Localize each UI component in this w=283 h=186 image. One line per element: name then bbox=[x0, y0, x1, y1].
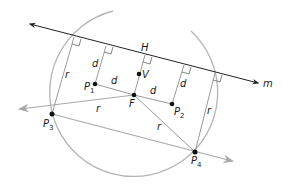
label-d-p1-perp: d bbox=[92, 58, 99, 69]
perp-p4 bbox=[195, 73, 215, 152]
label-v: V bbox=[142, 69, 150, 80]
label-p4: P4 bbox=[191, 155, 202, 169]
label-r-f-p4: r bbox=[157, 121, 162, 132]
label-p3: P3 bbox=[43, 118, 54, 132]
label-h: H bbox=[141, 42, 149, 53]
label-r-p4-perp: r bbox=[207, 105, 212, 116]
point-v bbox=[137, 72, 142, 77]
label-f: F bbox=[129, 98, 135, 109]
ray-f-p3 bbox=[20, 95, 134, 109]
label-d-f-p1: d bbox=[111, 75, 118, 86]
label-r-p3-perp: r bbox=[65, 69, 70, 80]
parabola-diagram: m H V F P1 P2 P3 P4 d d d d r r r r bbox=[0, 0, 283, 186]
label-r-f-p3: r bbox=[96, 103, 101, 114]
point-p1 bbox=[93, 82, 98, 87]
label-d-f-p2: d bbox=[150, 85, 157, 96]
label-d-p2-perp: d bbox=[180, 78, 187, 89]
point-p3 bbox=[50, 112, 55, 117]
segment-f-p2 bbox=[134, 95, 172, 104]
label-m: m bbox=[263, 78, 273, 89]
point-f bbox=[132, 93, 137, 98]
point-p4 bbox=[193, 150, 198, 155]
label-p2: P2 bbox=[174, 106, 185, 120]
